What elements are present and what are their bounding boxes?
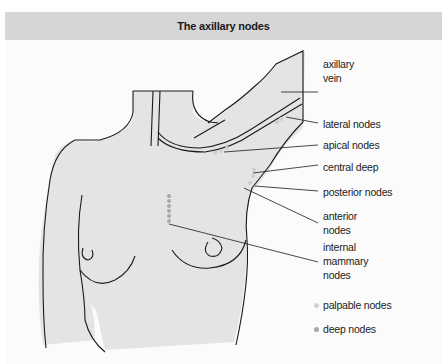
label-line: nodes: [323, 223, 357, 237]
label-axillary-vein: axillary vein: [323, 57, 354, 85]
label-line: anterior: [323, 209, 357, 223]
deep-node-swatch: [314, 327, 319, 332]
label-central-deep: central deep: [323, 160, 378, 174]
label-line: mammary: [323, 254, 368, 268]
label-lateral-nodes: lateral nodes: [323, 117, 381, 131]
label-line: vein: [323, 71, 354, 85]
label-posterior-nodes: posterior nodes: [323, 185, 392, 199]
label-apical-nodes: apical nodes: [323, 138, 380, 152]
palpable-node-swatch: [314, 303, 319, 308]
label-line: axillary: [323, 57, 354, 71]
label-line: nodes: [323, 268, 368, 282]
legend-deep-nodes: deep nodes: [323, 322, 376, 336]
legend-palpable-nodes: palpable nodes: [323, 298, 391, 312]
label-internal-mammary-nodes: internal mammary nodes: [323, 240, 368, 282]
label-anterior-nodes: anterior nodes: [323, 209, 357, 237]
label-line: internal: [323, 240, 368, 254]
